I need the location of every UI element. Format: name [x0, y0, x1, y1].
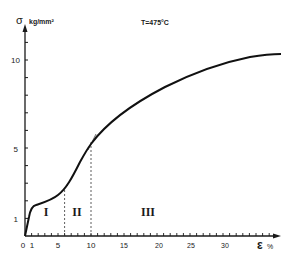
x-axis-symbol: ε: [257, 238, 263, 252]
x-tick-label-20: 20: [155, 242, 163, 249]
y-axis-arrow-icon: [23, 24, 28, 32]
y-tick-label-1: 1: [14, 215, 19, 224]
y-axis: [23, 24, 29, 236]
x-tick-label-25: 25: [187, 242, 195, 249]
x-tick-label-30: 30: [221, 242, 229, 249]
x-axis-unit: %: [267, 243, 273, 250]
y-tick-label-5: 5: [14, 145, 19, 154]
x-tick-label-0: 0: [21, 241, 26, 250]
x-tick-label-15: 15: [120, 242, 128, 249]
region-label-3: III: [141, 205, 155, 219]
region-label-1: I: [44, 205, 49, 219]
x-tick-label-5: 5: [56, 241, 61, 250]
x-tick-label-1: 1: [30, 241, 35, 250]
y-tick-label-10: 10: [11, 56, 20, 65]
y-axis-symbol: σ: [16, 14, 23, 26]
x-axis: [25, 233, 281, 239]
stress-strain-chart: 1 5 10 0 1 5 10 15 20 25 30 σ kg/mm² ε %…: [0, 0, 294, 262]
y-axis-unit: kg/mm²: [29, 18, 55, 26]
x-axis-arrow-icon: [273, 234, 281, 239]
temperature-annotation: T=475°C: [141, 19, 169, 26]
x-tick-label-10: 10: [87, 241, 96, 250]
region-label-2: II: [72, 205, 82, 219]
